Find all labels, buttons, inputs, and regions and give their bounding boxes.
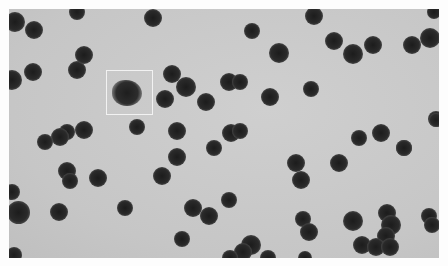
particle — [153, 167, 171, 185]
particle — [69, 9, 85, 20]
particle — [37, 134, 53, 150]
particle — [287, 154, 305, 172]
particle — [144, 9, 162, 27]
particle — [89, 169, 107, 187]
particle — [403, 36, 421, 54]
particle — [300, 223, 318, 241]
particle — [260, 250, 276, 258]
micrograph-image — [9, 9, 439, 258]
particle — [200, 207, 218, 225]
particle — [244, 23, 260, 39]
particle — [51, 128, 69, 146]
particle — [396, 140, 412, 156]
particle — [232, 123, 248, 139]
particle — [261, 88, 279, 106]
particle — [325, 32, 343, 50]
particle — [351, 130, 367, 146]
particle — [372, 124, 390, 142]
particle — [381, 238, 399, 256]
particle — [292, 171, 310, 189]
particle — [206, 140, 222, 156]
particle — [176, 77, 197, 98]
particle — [427, 9, 439, 19]
particle — [232, 74, 248, 90]
particle — [75, 121, 93, 139]
particle — [420, 28, 439, 49]
particle — [343, 44, 364, 65]
particle — [168, 122, 186, 140]
particle — [305, 9, 323, 25]
particle — [221, 192, 237, 208]
particle — [303, 81, 319, 97]
particle — [24, 63, 42, 81]
particle — [298, 251, 312, 258]
particle — [429, 113, 439, 127]
particle — [9, 247, 22, 258]
particle — [50, 203, 68, 221]
particle — [156, 90, 174, 108]
particle — [197, 93, 215, 111]
particle — [25, 21, 43, 39]
particle — [9, 184, 20, 200]
particle — [75, 46, 93, 64]
particle — [269, 43, 290, 64]
particle — [62, 173, 78, 189]
particle — [129, 119, 145, 135]
particle — [9, 12, 25, 33]
particle — [364, 36, 382, 54]
particle — [9, 70, 22, 91]
highlight-box — [106, 70, 153, 115]
particle — [424, 217, 439, 233]
particle — [330, 154, 348, 172]
particle — [174, 231, 190, 247]
particle — [343, 211, 364, 232]
particle — [117, 200, 133, 216]
particle — [9, 201, 30, 224]
particle — [168, 148, 186, 166]
